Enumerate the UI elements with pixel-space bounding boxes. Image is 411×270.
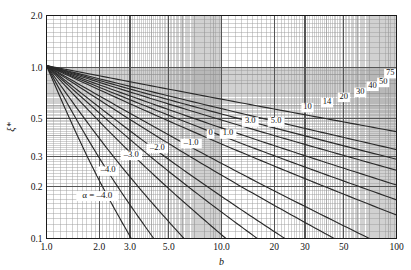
curve-label-3.0: 3.0 (245, 115, 256, 125)
x-tick-label: 5.0 (163, 242, 175, 252)
curve-label-10: 10 (303, 101, 312, 111)
x-tick-label: 30 (300, 242, 310, 252)
x-tick-label: 20 (269, 242, 279, 252)
y-tick-label: 0.3 (31, 152, 43, 162)
x-tick-label: 2.0 (93, 242, 105, 252)
curve-label--1.0: –1.0 (183, 137, 199, 147)
curve-label-1.0: 1.0 (223, 127, 234, 137)
chart-figure: –4.0–3.0–2.0–1.001.03.05.010142030405075… (0, 0, 411, 270)
x-axis-title: b (219, 256, 224, 267)
curve-label-0: 0 (208, 127, 212, 137)
y-tick-label: 1.0 (31, 63, 43, 73)
alpha-annotation: α = –4.0 (82, 190, 113, 200)
y-tick-label: 0.5 (31, 114, 43, 124)
y-tick-label: 2.0 (31, 11, 43, 21)
y-tick-label: 0.1 (31, 234, 43, 244)
y-axis-title: ξ* (5, 122, 17, 131)
x-tick-label: 3.0 (124, 242, 136, 252)
x-tick-label: 100 (389, 242, 404, 252)
curve-label--3.0: –3.0 (123, 149, 139, 159)
x-tick-label: 50 (339, 242, 349, 252)
x-tick-label: 10.0 (213, 242, 230, 252)
curve-label-75: 75 (386, 67, 395, 77)
curve-label-30: 30 (356, 86, 365, 96)
curve-label-40: 40 (368, 80, 377, 90)
major-gridlines (47, 16, 397, 239)
curve-label-20: 20 (340, 91, 349, 101)
y-tick-label: 0.2 (31, 182, 43, 192)
log-log-chart: –4.0–3.0–2.0–1.001.03.05.010142030405075… (0, 0, 411, 270)
curve-label--4.0: –4.0 (100, 164, 116, 174)
curve-label--2.0: –2.0 (149, 142, 165, 152)
curve-label-5.0: 5.0 (271, 115, 282, 125)
curve-label-14: 14 (323, 96, 332, 106)
